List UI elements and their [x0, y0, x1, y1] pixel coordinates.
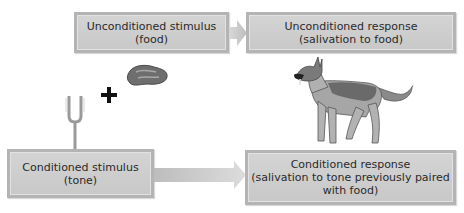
cs-label: Conditioned stimulus [22, 161, 138, 174]
unconditioned-stimulus-box: Unconditioned stimulus (food) [74, 12, 229, 53]
ur-sublabel: (salivation to food) [299, 33, 403, 46]
us-label: Unconditioned stimulus [87, 20, 217, 33]
cr-sublabel-2: with food) [323, 184, 378, 197]
tuning-fork-icon [64, 96, 86, 152]
cr-sublabel-1: (salivation to tone previously paired [251, 171, 449, 184]
ur-label: Unconditioned response [284, 20, 417, 33]
meat-icon [126, 63, 170, 89]
cs-sublabel: (tone) [64, 174, 97, 187]
plus-icon [99, 85, 119, 105]
arrow-cs-to-cr [154, 160, 246, 190]
unconditioned-response-box: Unconditioned response (salivation to fo… [246, 12, 456, 53]
arrow-us-to-ur [229, 18, 247, 48]
cr-label: Conditioned response [291, 158, 411, 171]
us-sublabel: (food) [135, 33, 168, 46]
conditioned-stimulus-box: Conditioned stimulus (tone) [7, 149, 154, 198]
dog-icon [288, 57, 418, 147]
conditioned-response-box: Conditioned response (salivation to tone… [245, 150, 456, 205]
